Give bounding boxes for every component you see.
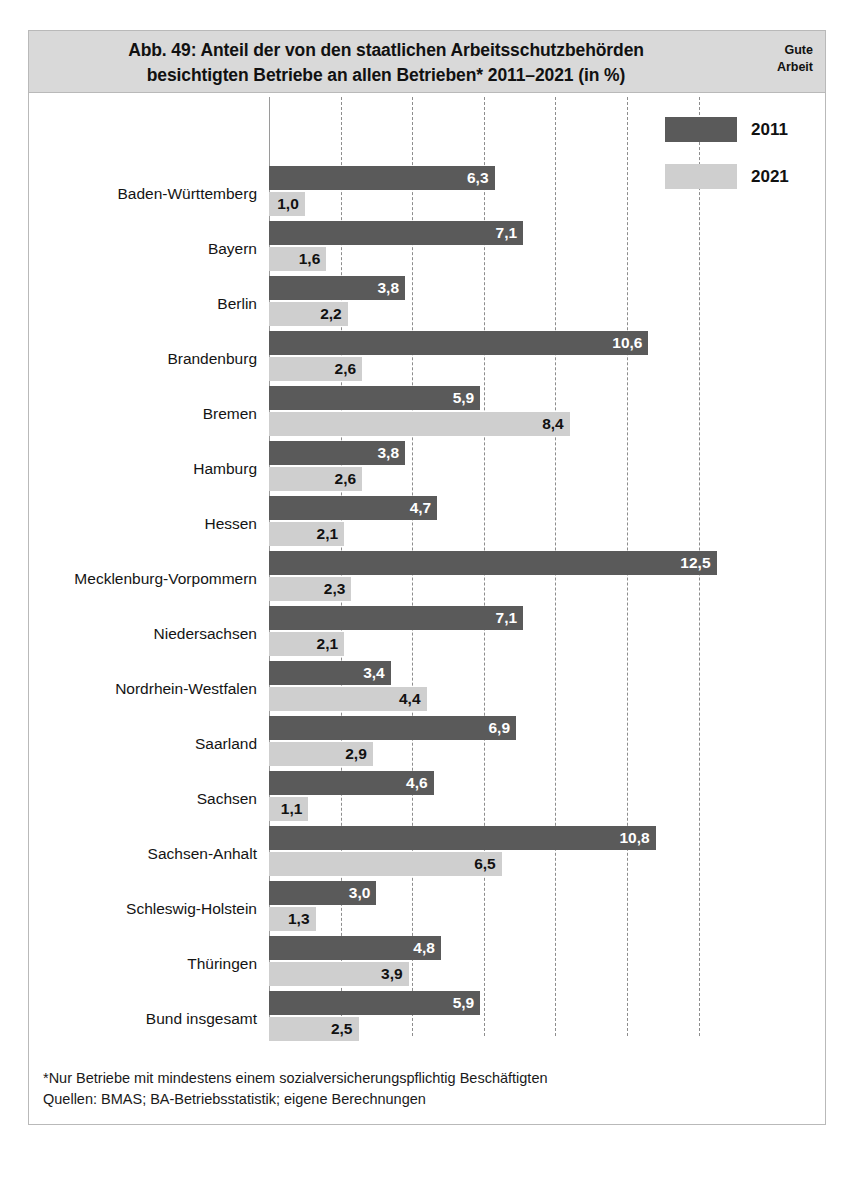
bar-2021[interactable]: 2,5 [269,1017,359,1041]
bar-value-label: 3,8 [377,279,399,297]
category-label: Bayern [29,238,257,257]
category-label: Baden-Württemberg [29,183,257,202]
legend-item-2021[interactable]: 2021 [665,164,815,189]
bar-value-label: 10,6 [612,334,642,352]
bar-2011[interactable]: 7,1 [269,221,523,245]
category-label: Saarland [29,733,257,752]
bar-row: Brandenburg10,62,6 [29,330,825,385]
bar-value-label: 12,5 [680,554,710,572]
bar-2011[interactable]: 4,7 [269,496,437,520]
category-label: Bund insgesamt [29,1008,257,1027]
bar-row: Sachsen4,61,1 [29,770,825,825]
bar-value-label: 3,4 [363,664,385,682]
bar-2021[interactable]: 8,4 [269,412,570,436]
category-label: Mecklenburg-Vorpommern [29,568,257,587]
bar-value-label: 7,1 [496,609,518,627]
bar-2011[interactable]: 10,8 [269,826,656,850]
figure-footnotes: *Nur Betriebe mit mindestens einem sozia… [43,1068,811,1110]
category-label: Sachsen-Anhalt [29,843,257,862]
bar-2011[interactable]: 3,8 [269,441,405,465]
bar-2011[interactable]: 12,5 [269,551,717,575]
bar-value-label: 1,0 [277,195,299,213]
bar-value-label: 2,9 [345,745,367,763]
bar-row: Berlin3,82,2 [29,275,825,330]
category-label: Hessen [29,513,257,532]
bar-value-label: 2,2 [320,305,342,323]
bar-2021[interactable]: 2,3 [269,577,351,601]
bar-2011[interactable]: 6,3 [269,166,495,190]
bar-2011[interactable]: 4,6 [269,771,434,795]
bar-value-label: 2,1 [317,635,339,653]
figure-header: Abb. 49: Anteil der von den staatlichen … [29,31,825,93]
bar-row: Mecklenburg-Vorpommern12,52,3 [29,550,825,605]
bar-2021[interactable]: 3,9 [269,962,409,986]
bar-2011[interactable]: 4,8 [269,936,441,960]
bar-value-label: 6,5 [474,855,496,873]
bar-2021[interactable]: 2,9 [269,742,373,766]
brand-line-2: Arbeit [735,59,813,76]
bar-value-label: 3,0 [349,884,371,902]
bar-row: Hamburg3,82,6 [29,440,825,495]
legend-swatch [665,164,737,189]
bar-value-label: 2,5 [331,1020,353,1038]
bar-value-label: 4,8 [413,939,435,957]
bar-2011[interactable]: 3,0 [269,881,376,905]
bar-2021[interactable]: 4,4 [269,687,427,711]
bar-2021[interactable]: 1,6 [269,247,326,271]
bar-2021[interactable]: 1,0 [269,192,305,216]
category-label: Brandenburg [29,348,257,367]
bar-2011[interactable]: 10,6 [269,331,648,355]
bar-value-label: 4,6 [406,774,428,792]
bar-row: Schleswig-Holstein3,01,3 [29,880,825,935]
bar-value-label: 1,1 [281,800,303,818]
bar-value-label: 10,8 [619,829,649,847]
category-label: Niedersachsen [29,623,257,642]
legend-label: 2021 [751,167,789,187]
bar-value-label: 1,6 [299,250,321,268]
legend-swatch [665,117,737,142]
bar-value-label: 6,3 [467,169,489,187]
bar-row: Bayern7,11,6 [29,220,825,275]
category-label: Sachsen [29,788,257,807]
bar-2021[interactable]: 2,1 [269,632,344,656]
chart-plot-area: Baden-Württemberg6,31,0Bayern7,11,6Berli… [29,93,825,1038]
category-label: Thüringen [29,953,257,972]
bar-2021[interactable]: 6,5 [269,852,502,876]
bar-2021[interactable]: 2,2 [269,302,348,326]
bar-2021[interactable]: 2,1 [269,522,344,546]
brand-logo: Gute Arbeit [735,42,813,76]
category-label: Hamburg [29,458,257,477]
bar-2021[interactable]: 2,6 [269,357,362,381]
bar-value-label: 1,3 [288,910,310,928]
bar-row: Sachsen-Anhalt10,86,5 [29,825,825,880]
bar-2011[interactable]: 3,4 [269,661,391,685]
bar-2021[interactable]: 2,6 [269,467,362,491]
bar-2021[interactable]: 1,1 [269,797,308,821]
bar-row: Saarland6,92,9 [29,715,825,770]
figure-title: Abb. 49: Anteil der von den staatlichen … [43,38,729,88]
bar-row: Bund insgesamt5,92,5 [29,990,825,1045]
category-label: Bremen [29,403,257,422]
figure-title-line-2: besichtigten Betriebe an allen Betrieben… [43,63,729,88]
footnote-line: *Nur Betriebe mit mindestens einem sozia… [43,1068,811,1089]
bar-2011[interactable]: 7,1 [269,606,523,630]
bar-2011[interactable]: 5,9 [269,991,480,1015]
bar-2021[interactable]: 1,3 [269,907,316,931]
bar-value-label: 2,6 [335,360,357,378]
bar-value-label: 4,7 [410,499,432,517]
legend-item-2011[interactable]: 2011 [665,117,815,142]
bar-value-label: 3,8 [377,444,399,462]
category-label: Schleswig-Holstein [29,898,257,917]
bar-value-label: 5,9 [453,994,475,1012]
bar-2011[interactable]: 3,8 [269,276,405,300]
bar-row: Nordrhein-Westfalen3,44,4 [29,660,825,715]
bar-value-label: 6,9 [488,719,510,737]
bar-value-label: 2,1 [317,525,339,543]
bar-row: Bremen5,98,4 [29,385,825,440]
bar-2011[interactable]: 6,9 [269,716,516,740]
bar-value-label: 5,9 [453,389,475,407]
bar-value-label: 7,1 [496,224,518,242]
bar-value-label: 2,3 [324,580,346,598]
bar-value-label: 3,9 [381,965,403,983]
bar-2011[interactable]: 5,9 [269,386,480,410]
